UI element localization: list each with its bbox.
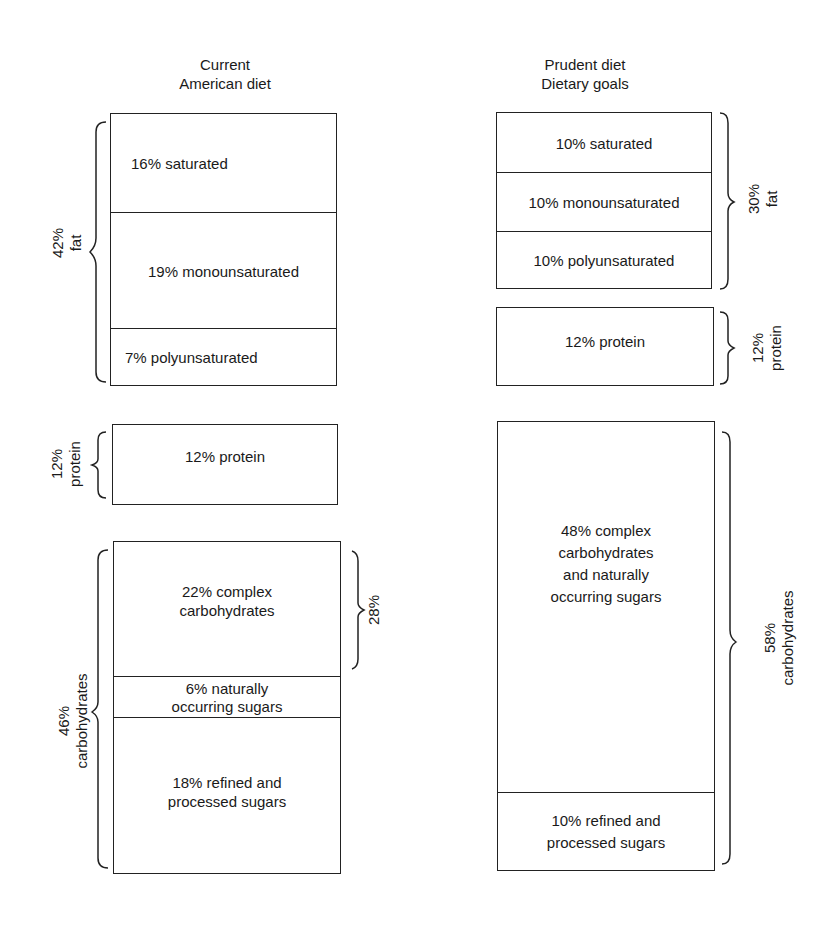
right-protein-box: 12% protein — [496, 307, 714, 386]
left-carbs-subgroup-brace-icon — [350, 549, 366, 671]
left-protein-brace-icon — [90, 430, 108, 500]
right-title-line2: Dietary goals — [510, 74, 660, 93]
right-column-title: Prudent diet Dietary goals — [510, 55, 660, 93]
left-fat-box: 16% saturated 19% monounsaturated 7% pol… — [110, 113, 337, 386]
left-protein-box: 12% protein — [112, 424, 338, 505]
right-protein-group-label: 12% protein — [749, 303, 785, 393]
left-carbs-box: 22% complex carbohydrates 6% naturally o… — [113, 541, 341, 874]
left-fat-monounsaturated: 19% monounsaturated — [111, 212, 336, 329]
right-title-line1: Prudent diet — [510, 55, 660, 74]
left-protein-segment: 12% protein — [113, 425, 337, 487]
left-title-line1: Current — [140, 55, 310, 74]
left-fat-polyunsaturated: 7% polyunsaturated — [111, 328, 336, 385]
right-carbs-box: 48% complex carbohydrates and naturally … — [497, 421, 715, 871]
right-carbs-refined-sugars: 10% refined and processed sugars — [498, 792, 714, 870]
right-protein-segment: 12% protein — [497, 308, 713, 374]
right-fat-monounsaturated: 10% monounsaturated — [497, 172, 711, 232]
left-carbs-complex: 22% complex carbohydrates — [114, 542, 340, 677]
right-fat-group-label: 30% fat — [745, 164, 781, 234]
right-fat-box: 10% saturated 10% monounsaturated 10% po… — [496, 112, 712, 289]
right-carbs-brace-icon — [720, 430, 738, 866]
right-protein-brace-icon — [718, 310, 736, 386]
left-protein-group-label: 12% protein — [48, 419, 84, 509]
right-carbs-complex-natural: 48% complex carbohydrates and naturally … — [498, 422, 714, 793]
left-carbs-natural-sugars: 6% naturally occurring sugars — [114, 676, 340, 718]
left-carbs-refined-sugars: 18% refined and processed sugars — [114, 717, 340, 873]
left-fat-group-label: 42% fat — [49, 203, 85, 283]
left-fat-saturated: 16% saturated — [111, 114, 336, 213]
left-carbs-brace-icon — [90, 548, 110, 870]
left-fat-brace-icon — [88, 120, 108, 384]
right-fat-saturated: 10% saturated — [497, 113, 711, 173]
left-carbs-subgroup-label: 28% — [365, 590, 383, 630]
right-carbs-group-label: 58% carbohydrates — [761, 573, 797, 703]
right-fat-polyunsaturated: 10% polyunsaturated — [497, 231, 711, 288]
left-title-line2: American diet — [140, 74, 310, 93]
left-column-title: Current American diet — [140, 55, 310, 93]
left-carbs-group-label: 46% carbohydrates — [55, 661, 91, 781]
right-fat-brace-icon — [718, 111, 736, 291]
